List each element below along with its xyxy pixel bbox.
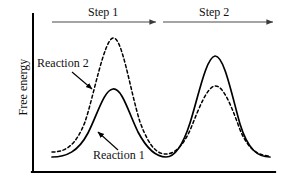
y-axis-label: Free energy [17,47,29,127]
curve-reaction-1 [52,56,270,157]
reaction-2-leader-arrow [72,72,92,89]
step-1-label: Step 1 [88,6,118,18]
free-energy-diagram: Step 1 Step 2 Reaction 2 Reaction 1 Free… [0,0,281,184]
reaction-1-label: Reaction 1 [93,149,145,161]
step-2-label: Step 2 [199,6,229,18]
reaction-2-label: Reaction 2 [37,57,89,69]
